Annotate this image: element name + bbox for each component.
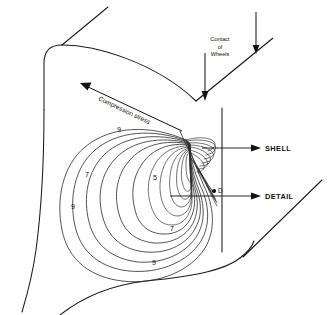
figure-container: Contact of Wheels Compression stress [0,0,330,315]
contour-level-5-inner [133,144,195,234]
contour-label-0: 9 [117,125,121,134]
contour-inner-f [186,151,191,182]
contour-label-3: 5 [153,173,157,182]
shell-callout: SHELL [202,144,291,153]
contour-trail-5 [198,171,217,206]
contact-note-line3: Wheels [211,51,230,57]
contour-inner-a [148,146,192,225]
compression-stress-group: Compression stress [80,83,182,132]
detail-arrow-head [251,193,261,200]
compression-stress-head [80,83,92,91]
contact-note-line1: Contact [210,36,230,42]
contact-of-wheels-group: Contact of Wheels [196,12,273,101]
compression-stress-shaft [86,86,182,131]
contour-fan-6 [190,150,208,169]
point-d-dot [212,189,216,193]
contact-note-line2: of [218,44,223,50]
contour-label-2: 9 [71,202,75,211]
point-d-marker: D [212,187,223,194]
contour-diagram-svg: Contact of Wheels Compression stress [0,0,330,315]
shell-arrow-head [251,145,261,152]
tooth-outline [22,7,322,315]
detail-callout: DETAIL [170,192,294,201]
contour-label-4: 7 [170,224,174,233]
point-d-label: D [218,187,223,194]
contour-label-5: 9 [152,258,156,267]
detail-label: DETAIL [265,192,294,201]
stress-contours [60,129,217,281]
contour-level-5-outer [116,142,197,243]
compression-stress-label: Compression stress [97,95,151,127]
shell-label: SHELL [265,144,291,153]
contour-label-1: 7 [85,170,89,179]
